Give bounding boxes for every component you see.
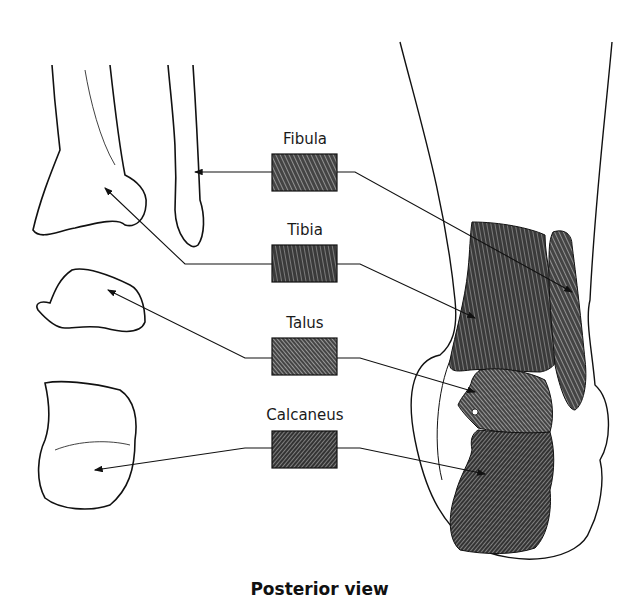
- tibia-swatch: [272, 245, 337, 282]
- calcaneus-illustration: [39, 382, 136, 509]
- calcaneus-shaded: [450, 430, 553, 554]
- talus-shaded: [458, 369, 552, 434]
- view-caption: Posterior view: [0, 579, 639, 599]
- fibula-swatch: [272, 154, 337, 191]
- fibula-shaded: [549, 231, 586, 410]
- tibia-shaded: [450, 222, 563, 372]
- label-tibia: Tibia: [245, 221, 365, 239]
- anatomy-drawing: [0, 0, 639, 605]
- label-calcaneus: Calcaneus: [245, 406, 365, 424]
- calcaneus-swatch: [272, 431, 337, 468]
- talus-foramen: [472, 409, 478, 415]
- talus-swatch: [272, 338, 337, 375]
- label-talus: Talus: [245, 314, 365, 332]
- tibia-illustration: [33, 65, 146, 235]
- fibula-illustration: [168, 65, 204, 247]
- label-fibula: Fibula: [245, 130, 365, 148]
